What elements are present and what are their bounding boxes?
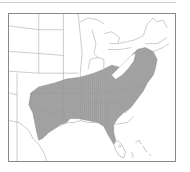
top-divider	[0, 2, 176, 3]
florida-peninsula	[114, 140, 126, 158]
bahamas-islands	[131, 140, 151, 158]
range-map	[8, 13, 176, 162]
map-canvas	[9, 14, 175, 161]
species-range-area	[29, 48, 157, 145]
